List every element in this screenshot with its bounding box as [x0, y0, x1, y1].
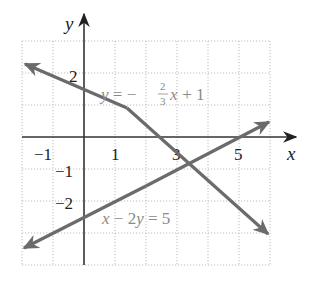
x-tick-label-5: 5 [234, 145, 243, 164]
y-tick-label-neg2: −2 [55, 194, 73, 213]
x-axis-label: x [286, 143, 296, 164]
eq1-prefix: = − [109, 85, 137, 104]
svg-text:x − 2y = 5: x − 2y = 5 [101, 209, 170, 228]
x-tick-label-neg1: −1 [34, 145, 52, 164]
eq1-y: y [99, 85, 109, 104]
svg-text:y = −: y = − [99, 85, 136, 104]
eq1-frac-den: 3 [160, 95, 166, 107]
coordinate-plane-diagram: x y −1 1 3 5 2 −1 −2 y = − 2 3 x + 1 x −… [0, 0, 316, 282]
y-axis-label: y [63, 13, 74, 34]
eq2-mid: − 2 [110, 209, 137, 228]
eq1-frac-num: 2 [160, 80, 166, 92]
eq2-suffix: = 5 [144, 209, 171, 228]
eq2-y: y [134, 209, 144, 228]
eq1-x: x [169, 85, 178, 104]
x-tick-label-1: 1 [111, 145, 120, 164]
equation-label-line2: x − 2y = 5 [101, 209, 170, 228]
equation-label-line1: y = − 2 3 x + 1 [99, 80, 205, 107]
y-tick-label-neg1: −1 [55, 162, 73, 181]
eq1-suffix: + 1 [178, 85, 205, 104]
